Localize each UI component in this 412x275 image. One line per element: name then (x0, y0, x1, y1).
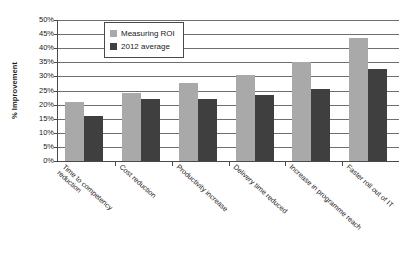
x-axis-category-label: Faster roll out of IT (345, 163, 412, 250)
y-axis-title: % Improvement (8, 20, 22, 160)
y-axis-tick-label: 50% (24, 16, 54, 24)
y-axis-tick-label: 5% (24, 143, 54, 151)
y-axis-tick-labels: 50%45%40%35%30%25%20%15%10%5%0% (24, 20, 54, 161)
y-axis-tick-label: 35% (24, 58, 54, 66)
bar (349, 38, 368, 161)
y-axis-tick-label: 15% (24, 115, 54, 123)
bar (122, 93, 141, 161)
y-axis-tick-label: 0% (24, 157, 54, 165)
y-axis-tickmark (54, 161, 58, 162)
legend-swatch-icon (110, 43, 117, 50)
y-axis-title-text: % Improvement (11, 61, 20, 118)
bar (198, 99, 217, 161)
bar (311, 89, 330, 161)
x-axis-category-labels: Time to competency reductionCost reducti… (57, 163, 402, 271)
y-axis-tick-label: 40% (24, 44, 54, 52)
bar (236, 75, 255, 161)
y-axis-tick-label: 45% (24, 30, 54, 38)
x-axis-category-label: Increase in programme reach (288, 163, 383, 250)
bar (84, 116, 103, 161)
bar (65, 102, 84, 161)
y-axis-tick-label: 10% (24, 129, 54, 137)
legend-item: Measuring ROI (110, 27, 175, 40)
bar (255, 95, 274, 161)
x-axis-category-label: Productivity increase (174, 163, 269, 250)
legend-swatch-icon (110, 30, 117, 37)
chart-legend: Measuring ROI2012 average (104, 22, 184, 58)
bar (179, 83, 198, 161)
legend-label: Measuring ROI (121, 29, 175, 38)
bar (368, 69, 387, 161)
y-axis-tick-label: 20% (24, 101, 54, 109)
bar (141, 99, 160, 161)
bar-group (342, 20, 399, 161)
x-axis-category-label: Delivery time reduced (231, 163, 326, 250)
bar-chart: % Improvement 50%45%40%35%30%25%20%15%10… (0, 0, 412, 275)
bar-group (229, 20, 286, 161)
legend-label: 2012 average (121, 42, 170, 51)
y-axis-tick-label: 25% (24, 87, 54, 95)
y-axis-tick-label: 30% (24, 72, 54, 80)
bar-group (285, 20, 342, 161)
bar (292, 62, 311, 161)
legend-item: 2012 average (110, 40, 175, 53)
